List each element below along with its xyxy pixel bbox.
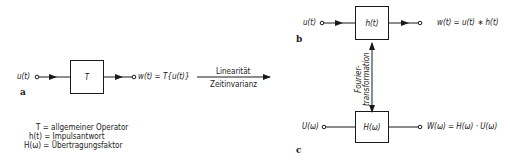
diagram-a-operator-block: T <box>70 60 104 94</box>
fourier-transform-label: Fourier- transformation <box>355 52 371 106</box>
diagram-b-block-label: h(t) <box>366 19 379 28</box>
transition-label-time-invariance: Zeitinvarianz <box>210 80 257 89</box>
diagram-b-output-label: w(t) = u(t) ∗ h(t) <box>437 18 499 27</box>
diagram-a-input-label: u(t) <box>17 72 30 81</box>
diagram-b-input-label: u(t) <box>303 18 316 27</box>
diagram-c-tag: c <box>296 145 301 155</box>
diagram-c-block-label: H(ω) <box>363 123 380 132</box>
diagram-a-tag: a <box>20 87 26 97</box>
diagram-c-transfer-block: H(ω) <box>355 111 389 143</box>
diagram-c-output-label: W(ω) = H(ω) · U(ω) <box>427 122 497 131</box>
transition-label-linearity: Linearität <box>216 67 250 76</box>
diagram-b-impulse-block: h(t) <box>355 6 389 40</box>
diagram-a-block-label: T <box>85 73 89 82</box>
diagram-a-output-label: w(t) = T{u(t)} <box>138 72 189 81</box>
legend-item-transfer-factor: H(ω) = Übertragungsfaktor <box>24 141 122 150</box>
legend-item-impulse-response: h(t) = Impulsantwort <box>29 132 104 141</box>
fourier-label-line2: transformation <box>363 52 371 106</box>
diagram-b-tag: b <box>296 34 302 44</box>
diagram-c-input-label: U(ω) <box>302 122 319 131</box>
legend-item-operator: T = allgemeiner Operator <box>36 123 128 132</box>
